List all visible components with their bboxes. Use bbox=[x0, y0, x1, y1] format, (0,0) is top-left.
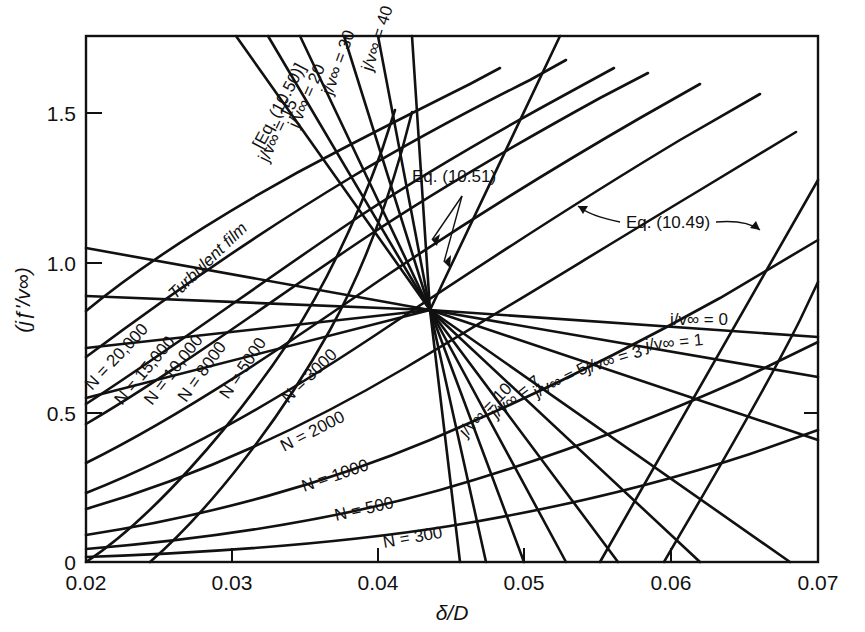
y-tick-label-1: 0.5 bbox=[47, 402, 76, 425]
j-label-0: j/v∞ = 0 bbox=[669, 310, 728, 329]
n-curve-5000 bbox=[86, 84, 700, 463]
eq-10-49-group bbox=[430, 36, 818, 562]
n-label-5000: N = 5000 bbox=[216, 334, 271, 402]
eq-10-49-label: Eq. (10.49) bbox=[626, 213, 710, 232]
j-line-1 bbox=[430, 310, 818, 377]
eq-10-49-leader-left bbox=[578, 206, 620, 222]
x-tick-label-4: 0.06 bbox=[651, 571, 692, 594]
turbulent-film-label: Turbulent film bbox=[165, 219, 251, 303]
x-tick-labels: 0.02 0.03 0.04 0.05 0.06 0.07 bbox=[66, 571, 839, 594]
x-tick-label-2: 0.04 bbox=[358, 571, 399, 594]
eq-10-51-leaders bbox=[432, 196, 462, 268]
n-label-300: N = 300 bbox=[381, 523, 443, 552]
n-curve-group bbox=[86, 60, 818, 557]
j-line-ll-2 bbox=[86, 296, 430, 310]
j-line-0 bbox=[430, 310, 818, 337]
y-tick-label-0: 0 bbox=[64, 551, 76, 574]
x-axis-title: δ/D bbox=[436, 601, 469, 624]
n-label-1000: N = 1000 bbox=[299, 455, 371, 496]
x-tick-label-5: 0.07 bbox=[798, 571, 839, 594]
x-tick-label-1: 0.03 bbox=[212, 571, 253, 594]
eq-10-49-leader-right bbox=[716, 221, 760, 230]
y-tick-labels: 0 0.5 1.0 1.5 bbox=[47, 102, 76, 574]
plot-frame bbox=[86, 36, 818, 562]
n-label-500: N = 500 bbox=[333, 493, 396, 525]
y-tick-label-2: 1.0 bbox=[47, 252, 76, 275]
y-tick-label-3: 1.5 bbox=[47, 102, 76, 125]
n-label-3000: N = 3000 bbox=[278, 345, 341, 407]
eq-10-51-label: Eq. (10.51) bbox=[412, 167, 496, 186]
figure-container: 0.02 0.03 0.04 0.05 0.06 0.07 0 0.5 1.0 … bbox=[0, 0, 865, 632]
j-upper-labels: j/v∞ = 40 j/v∞ = 30 j/v∞ = 20 j/v∞ = 15 bbox=[254, 3, 397, 165]
chart-svg: 0.02 0.03 0.04 0.05 0.06 0.07 0 0.5 1.0 … bbox=[0, 0, 865, 632]
x-tick-label-3: 0.05 bbox=[504, 571, 545, 594]
j-line-ll-1 bbox=[86, 248, 430, 310]
j-label-40: j/v∞ = 40 bbox=[357, 3, 396, 74]
x-tick-label-0: 0.02 bbox=[66, 571, 107, 594]
n-curve-15000 bbox=[86, 60, 566, 357]
y-axis-title: (jƒ'/v∞) bbox=[11, 267, 34, 333]
